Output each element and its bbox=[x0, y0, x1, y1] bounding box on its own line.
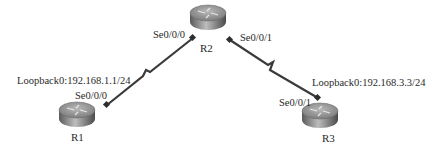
network-diagram: R2 R1 bbox=[0, 0, 439, 150]
r2-se001-label: Se0/0/1 bbox=[240, 32, 272, 44]
router-r1[interactable] bbox=[58, 100, 96, 128]
r2-se000-label: Se0/0/0 bbox=[153, 29, 185, 41]
r1-se000-label: Se0/0/0 bbox=[75, 90, 107, 102]
router-r1-name: R1 bbox=[71, 131, 84, 143]
router-icon bbox=[58, 100, 96, 128]
router-r2-name: R2 bbox=[200, 42, 213, 54]
router-r2[interactable] bbox=[189, 3, 227, 31]
router-icon bbox=[189, 3, 227, 31]
serial-link-r1-r2[interactable] bbox=[103, 34, 196, 108]
r1-loopback-label: Loopback0:192.168.1.1/24 bbox=[17, 75, 130, 87]
r3-loopback-label: Loopback0:192.168.3.3/24 bbox=[312, 77, 425, 89]
r3-se001-label: Se0/0/1 bbox=[279, 97, 311, 109]
router-r3-name: R3 bbox=[322, 132, 335, 144]
serial-link-r2-r3[interactable] bbox=[226, 36, 321, 101]
